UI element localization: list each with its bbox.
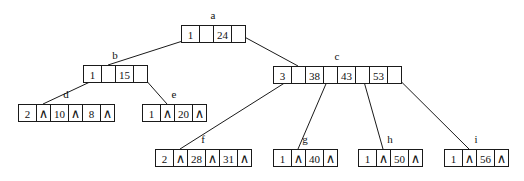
cell-ptr bbox=[388, 67, 402, 84]
node-label: g bbox=[302, 133, 308, 145]
cell-key: 38 bbox=[306, 67, 324, 84]
null-pointer-icon: ∧ bbox=[208, 151, 218, 166]
cell-count: 1 bbox=[143, 105, 161, 122]
cell-box bbox=[232, 26, 246, 43]
node-label: c bbox=[335, 50, 340, 62]
null-pointer-icon: ∧ bbox=[465, 151, 475, 166]
key-count: 1 bbox=[188, 29, 194, 41]
key-value: 10 bbox=[54, 108, 66, 120]
cell-null: ∧ bbox=[69, 105, 83, 122]
null-pointer-icon: ∧ bbox=[103, 106, 113, 121]
node-label: h bbox=[387, 133, 393, 145]
node-label: b bbox=[112, 49, 118, 61]
cell-box bbox=[102, 66, 116, 83]
null-pointer-icon: ∧ bbox=[326, 151, 336, 166]
key-value: 28 bbox=[191, 153, 203, 165]
key-value: 56 bbox=[480, 153, 492, 165]
cell-key: 31 bbox=[220, 150, 238, 167]
key-count: 1 bbox=[90, 69, 96, 81]
null-pointer-icon: ∧ bbox=[240, 151, 250, 166]
key-value: 15 bbox=[119, 69, 131, 81]
cell-null: ∧ bbox=[101, 105, 115, 122]
b-tree-diagram: 124a115b3384353c2∧10∧8∧d1∧20∧e2∧28∧31∧f1… bbox=[0, 0, 524, 181]
cell-key: 15 bbox=[116, 66, 134, 83]
key-count: 1 bbox=[149, 108, 155, 120]
cell-key: 10 bbox=[51, 105, 69, 122]
cell-box bbox=[356, 67, 370, 84]
cell-ptr bbox=[324, 67, 338, 84]
cell-null: ∧ bbox=[377, 150, 391, 167]
cell-null: ∧ bbox=[37, 105, 51, 122]
cell-key: 40 bbox=[306, 150, 324, 167]
cell-key: 8 bbox=[83, 105, 101, 122]
edge-c-i bbox=[394, 75, 469, 150]
edge-a-c bbox=[238, 34, 298, 67]
key-value: 38 bbox=[309, 70, 321, 82]
cell-box bbox=[388, 67, 402, 84]
cell-key: 53 bbox=[370, 67, 388, 84]
cell-ptr bbox=[356, 67, 370, 84]
key-count: 1 bbox=[365, 153, 371, 165]
null-pointer-icon: ∧ bbox=[294, 151, 304, 166]
key-value: 20 bbox=[178, 108, 190, 120]
node-label: a bbox=[211, 9, 216, 21]
cell-key: 43 bbox=[338, 67, 356, 84]
key-count: 3 bbox=[280, 70, 286, 82]
key-value: 50 bbox=[394, 153, 406, 165]
cell-null: ∧ bbox=[161, 105, 175, 122]
cell-ptr bbox=[102, 66, 116, 83]
cell-ptr bbox=[134, 66, 148, 83]
cell-box bbox=[134, 66, 148, 83]
key-value: 24 bbox=[217, 29, 229, 41]
cell-box bbox=[324, 67, 338, 84]
key-count: 1 bbox=[280, 153, 286, 165]
cell-count: 2 bbox=[19, 105, 37, 122]
key-value: 31 bbox=[223, 153, 234, 165]
cell-ptr bbox=[232, 26, 246, 43]
key-count: 1 bbox=[451, 153, 457, 165]
cell-key: 20 bbox=[175, 105, 193, 122]
node-f: 2∧28∧31∧f bbox=[156, 133, 252, 167]
cell-box bbox=[200, 26, 214, 43]
null-pointer-icon: ∧ bbox=[71, 106, 81, 121]
cell-null: ∧ bbox=[174, 150, 188, 167]
cell-null: ∧ bbox=[193, 105, 207, 122]
node-e: 1∧20∧e bbox=[143, 88, 207, 122]
cell-ptr bbox=[200, 26, 214, 43]
edge-c-h bbox=[362, 75, 383, 150]
cell-null: ∧ bbox=[409, 150, 423, 167]
cell-count: 2 bbox=[156, 150, 174, 167]
cell-key: 24 bbox=[214, 26, 232, 43]
cell-count: 1 bbox=[274, 150, 292, 167]
cell-null: ∧ bbox=[206, 150, 220, 167]
key-count: 2 bbox=[25, 108, 31, 120]
cell-null: ∧ bbox=[463, 150, 477, 167]
cell-count: 1 bbox=[182, 26, 200, 43]
key-value: 43 bbox=[341, 70, 353, 82]
node-b: 115b bbox=[84, 49, 148, 83]
node-g: 1∧40∧g bbox=[274, 133, 338, 167]
null-pointer-icon: ∧ bbox=[39, 106, 49, 121]
node-label: f bbox=[201, 133, 205, 145]
cell-box bbox=[292, 67, 306, 84]
node-h: 1∧50∧h bbox=[359, 133, 423, 167]
cell-count: 1 bbox=[359, 150, 377, 167]
cell-ptr bbox=[292, 67, 306, 84]
cell-key: 56 bbox=[477, 150, 495, 167]
key-value: 53 bbox=[373, 70, 385, 82]
null-pointer-icon: ∧ bbox=[176, 151, 186, 166]
cell-count: 1 bbox=[445, 150, 463, 167]
nodes-layer: 124a115b3384353c2∧10∧8∧d1∧20∧e2∧28∧31∧f1… bbox=[19, 9, 509, 167]
cell-count: 3 bbox=[274, 67, 292, 84]
edges-layer bbox=[43, 34, 469, 150]
node-c: 3384353c bbox=[274, 50, 402, 84]
key-value: 8 bbox=[89, 108, 95, 120]
node-label: e bbox=[172, 88, 177, 100]
node-i: 1∧56∧i bbox=[445, 133, 509, 167]
node-label: d bbox=[63, 88, 69, 100]
key-count: 2 bbox=[162, 153, 168, 165]
cell-key: 50 bbox=[391, 150, 409, 167]
key-value: 40 bbox=[309, 153, 321, 165]
cell-null: ∧ bbox=[238, 150, 252, 167]
cell-count: 1 bbox=[84, 66, 102, 83]
